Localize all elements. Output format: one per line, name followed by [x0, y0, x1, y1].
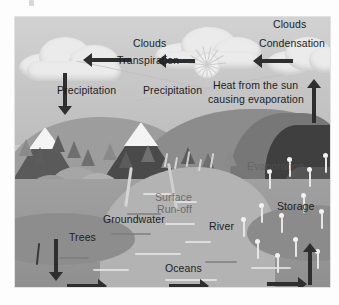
wave [59, 257, 89, 259]
label-heat-from-sun-line1: Heat from the sun [213, 79, 298, 91]
arrow-flow-left [67, 279, 107, 287]
label-clouds-left: Clouds [133, 37, 166, 49]
conifer-tree [141, 145, 155, 162]
conifer-tree [103, 143, 117, 160]
snow-cap-center [124, 122, 158, 146]
label-oceans: Oceans [165, 262, 202, 274]
conifer-tree [67, 141, 81, 158]
label-storage: Storage [277, 200, 314, 212]
label-transpiration: Transpiration [117, 54, 179, 66]
label-groundwater: Groundwater [103, 213, 165, 225]
sun-icon [196, 54, 218, 76]
arrow-evaporation-right [307, 79, 321, 123]
label-heat-from-sun-line2: causing evaporation [208, 93, 304, 105]
conifer-tree [81, 149, 95, 166]
wave [165, 223, 195, 225]
conifer-tree [51, 135, 65, 152]
screenshot-root: Clouds Clouds Transpiration Condensation… [0, 0, 339, 305]
conifer-tree [119, 151, 133, 168]
label-river: River [209, 220, 234, 232]
wave [93, 269, 129, 271]
wave [135, 253, 181, 255]
conifer-tree [33, 147, 47, 164]
label-clouds-right: Clouds [273, 18, 306, 30]
arrow-condensation [253, 54, 293, 68]
label-evaporation: Evaporation [247, 160, 304, 172]
label-precipitation-1: Precipitation [57, 84, 116, 96]
conifer-tree [19, 139, 33, 156]
wave [111, 233, 151, 235]
wave [205, 261, 237, 263]
water-cycle-illustration: Clouds Clouds Transpiration Condensation… [15, 17, 330, 287]
arrow-flow-oceans [169, 279, 209, 287]
label-trees: Trees [69, 231, 96, 243]
arrow-infiltration-down [49, 239, 63, 281]
label-surface-runoff-line1: Surface [155, 191, 192, 203]
label-condensation: Condensation [259, 37, 325, 49]
label-precipitation-2: Precipitation [143, 84, 202, 96]
arrow-flow-right [267, 277, 307, 287]
conifer-tree [223, 149, 237, 166]
wave [251, 267, 291, 269]
wave [185, 241, 211, 243]
scan-artifact-speck [29, 0, 34, 6]
